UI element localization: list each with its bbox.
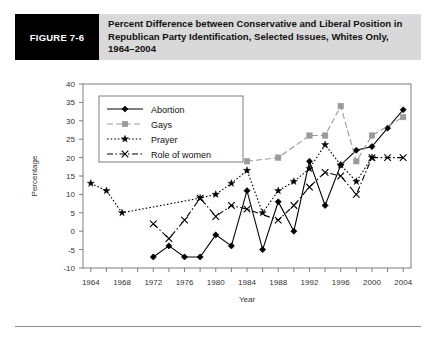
figure-page: FIGURE 7-6 Percent Difference between Co…	[0, 0, 436, 345]
x-axis-tick-label: 1984	[238, 278, 256, 287]
x-axis-tick-label: 2004	[394, 278, 412, 287]
y-axis-tick-label: 10	[66, 190, 75, 199]
x-axis-tick-label: 1996	[332, 278, 350, 287]
legend-marker-1	[122, 121, 127, 126]
x-axis-tick-label: 1980	[207, 278, 225, 287]
y-axis-tick-label: 25	[66, 135, 75, 144]
x-axis-tick-label: 1992	[301, 278, 319, 287]
x-axis-tick-label: 1976	[176, 278, 194, 287]
y-axis-tick-label: 40	[66, 80, 75, 89]
figure-number-tag: FIGURE 7-6	[15, 14, 99, 60]
x-axis-tick-label: 1972	[144, 278, 162, 287]
x-axis-tick-label: 1988	[269, 278, 287, 287]
y-axis-tick-label: 20	[66, 154, 75, 163]
x-axis-tick-label: 1968	[113, 278, 131, 287]
data-point-marker	[276, 155, 281, 160]
y-axis-tick-label: 15	[66, 172, 75, 181]
line-chart: -10-505101520253035401964196819721976198…	[15, 72, 421, 312]
data-point-marker	[400, 114, 405, 119]
legend-label-2: Prayer	[151, 135, 178, 145]
y-axis-tick-label: -5	[68, 246, 76, 255]
y-axis-tick-label: 5	[71, 209, 76, 218]
legend-label-3: Role of women	[151, 150, 211, 160]
figure-title: Percent Difference between Conservative …	[99, 14, 421, 60]
x-axis-tick-label: 1964	[82, 278, 100, 287]
data-point-marker	[307, 133, 312, 138]
x-axis-tick-label: 2000	[363, 278, 381, 287]
legend-label-0: Abortion	[151, 105, 185, 115]
footer-divider	[15, 326, 421, 327]
y-axis-tick-label: 0	[71, 227, 76, 236]
x-axis-title: Year	[239, 295, 256, 304]
data-point-marker	[244, 159, 249, 164]
y-axis-title: Percentage	[30, 155, 39, 196]
legend-label-1: Gays	[151, 120, 173, 130]
chart-legend: AbortionGaysPrayerRole of women	[99, 96, 243, 162]
figure-header: FIGURE 7-6 Percent Difference between Co…	[15, 14, 421, 60]
data-point-marker	[322, 133, 327, 138]
data-point-marker	[338, 103, 343, 108]
y-axis-tick-label: 35	[66, 98, 75, 107]
data-point-marker	[369, 133, 374, 138]
y-axis-tick-label: 30	[66, 117, 75, 126]
y-axis-tick-label: -10	[63, 264, 75, 273]
chart-container: -10-505101520253035401964196819721976198…	[15, 72, 421, 312]
data-point-marker	[354, 159, 359, 164]
